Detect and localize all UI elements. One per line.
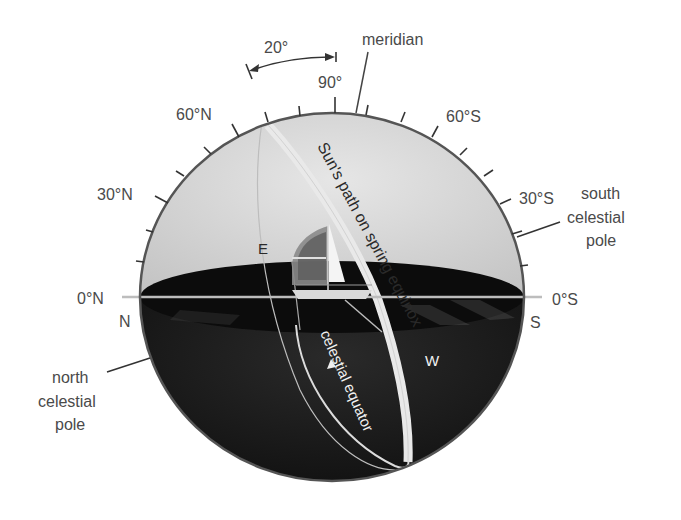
south-celestial-pole-label: south celestial pole xyxy=(567,185,625,249)
svg-text:south: south xyxy=(581,185,620,202)
label-30S: 30°S xyxy=(519,190,554,207)
meridian-label: meridian xyxy=(362,31,423,48)
compass-south: S xyxy=(530,314,541,331)
svg-text:celestial: celestial xyxy=(567,209,625,226)
zenith-label-90: 90° xyxy=(318,74,342,91)
compass-east: E xyxy=(258,240,268,257)
label-0S: 0°S xyxy=(552,291,578,308)
south-pole-pointer xyxy=(517,222,560,237)
label-60S: 60°S xyxy=(446,108,481,125)
label-0N: 0°N xyxy=(77,290,104,307)
compass-west: W xyxy=(425,352,440,369)
svg-text:celestial: celestial xyxy=(38,393,96,410)
meridian-pointer-line xyxy=(356,52,368,113)
label-60N: 60°N xyxy=(176,106,212,123)
svg-text:pole: pole xyxy=(586,232,616,249)
angle-label-20: 20° xyxy=(264,39,288,56)
svg-text:north: north xyxy=(52,369,88,386)
svg-text:pole: pole xyxy=(55,416,85,433)
compass-north: N xyxy=(119,313,131,330)
north-celestial-pole-label: north celestial pole xyxy=(38,369,96,433)
label-30N: 30°N xyxy=(97,186,133,203)
north-pole-pointer xyxy=(107,358,150,372)
celestial-sphere-diagram: 20° meridian 90° 60°N 30°N 0°N 60°S 30°S… xyxy=(0,0,681,520)
